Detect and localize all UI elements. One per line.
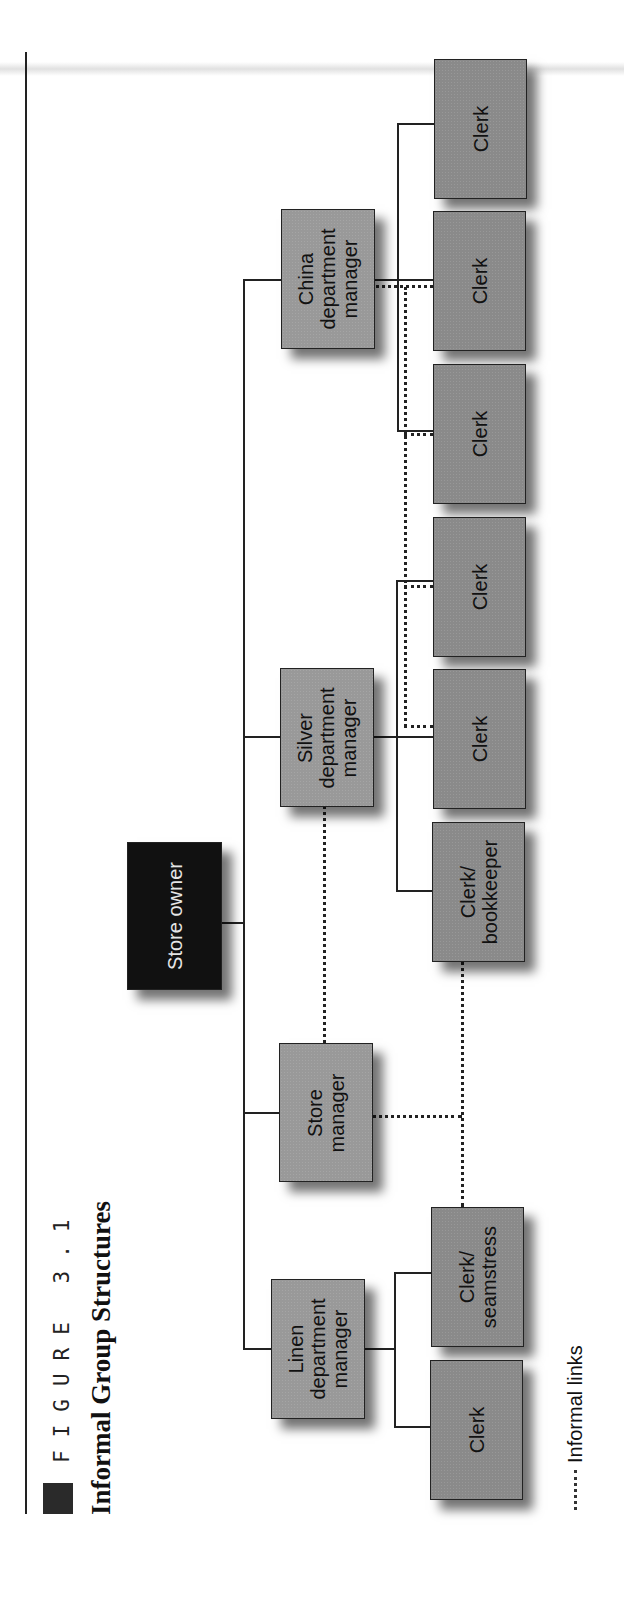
linen-to-seamstress xyxy=(394,1272,431,1274)
linen-out-line xyxy=(364,1348,396,1350)
informal-link-store-horizontal xyxy=(372,1115,462,1118)
figure-marker-square xyxy=(43,1483,73,1514)
clerk-bookkeeper-box: Clerk/ bookkeeper xyxy=(432,822,525,962)
clerk-seamstress-label: Clerk/ seamstress xyxy=(456,1226,500,1328)
legend-label: Informal links xyxy=(564,1345,587,1463)
page-rule xyxy=(25,52,27,1514)
store-owner-label: Store owner xyxy=(164,862,186,970)
china-to-clerk-top xyxy=(397,123,434,125)
owner-connector xyxy=(221,922,244,924)
china-to-clerk-bottom xyxy=(397,430,433,432)
scan-artifact-band xyxy=(0,62,624,76)
clerk-label: Clerk xyxy=(470,106,492,153)
china-clerk-mid-box: Clerk xyxy=(433,211,526,351)
china-clerk-bottom-box: Clerk xyxy=(433,364,526,504)
store-manager-connector xyxy=(243,1112,279,1114)
silver-to-clerk-top xyxy=(396,580,433,582)
informal-link-store-silver xyxy=(323,806,326,1043)
china-manager-box: China department manager xyxy=(281,209,375,349)
informal-link-china-clerk xyxy=(404,433,433,436)
silver-manager-connector xyxy=(243,736,280,738)
informal-link-silver-clerk-top xyxy=(404,585,433,588)
figure-label: FIGURE 3.1 xyxy=(50,1207,74,1463)
clerk-label: Clerk xyxy=(469,716,491,763)
china-out-line xyxy=(374,279,434,281)
linen-to-clerk xyxy=(394,1426,430,1428)
store-owner-box: Store owner xyxy=(127,842,222,990)
linen-manager-label: Linen department manager xyxy=(285,1298,351,1399)
linen-manager-connector xyxy=(243,1348,271,1350)
silver-bracket xyxy=(396,580,398,892)
silver-clerk-top-box: Clerk xyxy=(433,517,526,657)
clerk-label: Clerk xyxy=(469,564,491,611)
clerk-seamstress-box: Clerk/ seamstress xyxy=(431,1207,524,1347)
store-manager-box: Store manager xyxy=(279,1043,373,1182)
silver-manager-label: Silver department manager xyxy=(294,687,360,788)
informal-link-silver-clerk-mid xyxy=(404,725,433,728)
informal-link-china-vertical xyxy=(404,287,407,727)
clerk-label: Clerk xyxy=(469,411,491,458)
china-bracket xyxy=(397,123,399,432)
silver-clerk-mid-box: Clerk xyxy=(433,669,526,809)
figure-title: Informal Group Structures xyxy=(86,1201,117,1515)
clerk-label: Clerk xyxy=(466,1407,488,1454)
linen-clerk-box: Clerk xyxy=(430,1360,523,1500)
china-manager-label: China department manager xyxy=(295,228,361,329)
legend-dotted-line-icon xyxy=(574,1470,577,1510)
china-clerk-top-box: Clerk xyxy=(434,59,527,199)
clerk-bookkeeper-label: Clerk/ bookkeeper xyxy=(457,840,501,945)
linen-bracket xyxy=(394,1272,396,1428)
trunk-line xyxy=(243,279,245,1350)
silver-out-line xyxy=(373,736,433,738)
store-manager-label: Store manager xyxy=(304,1073,348,1152)
china-manager-connector xyxy=(243,279,281,281)
silver-manager-box: Silver department manager xyxy=(280,668,374,807)
silver-to-bookkeeper xyxy=(396,890,432,892)
clerk-label: Clerk xyxy=(469,258,491,305)
linen-manager-box: Linen department manager xyxy=(271,1279,365,1419)
informal-link-bookkeeper-seamstress xyxy=(461,961,464,1207)
